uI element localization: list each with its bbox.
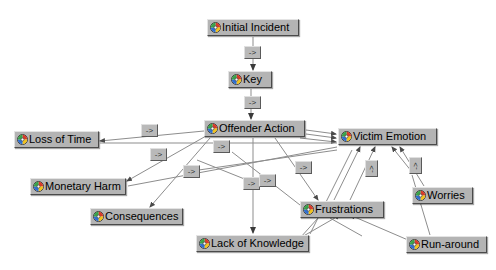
edge-label-text: -> [368, 165, 376, 172]
node-label: Monetary Harm [45, 181, 121, 192]
node-label: Frustrations [315, 204, 373, 215]
node-label: Worries [427, 190, 465, 201]
node-sphere-icon [409, 239, 420, 250]
edge-label-offender-monetary-harm[interactable]: -> [150, 148, 167, 161]
node-label: Run-around [421, 239, 479, 250]
node-sphere-icon [210, 22, 221, 33]
node-label: Lack of Knowledge [211, 238, 304, 249]
edge-label-text: -> [155, 151, 162, 159]
edge-label-offender-victim[interactable]: -> [243, 177, 260, 190]
edge-label-victim-incoming-right[interactable]: -> [409, 157, 422, 174]
node-label: Key [243, 74, 262, 85]
node-consequences[interactable]: Consequences [90, 208, 183, 225]
edge-label-text: -> [264, 177, 271, 185]
node-sphere-icon [207, 123, 218, 134]
node-label: Loss of Time [29, 134, 91, 145]
node-loss-of-time[interactable]: Loss of Time [14, 131, 99, 148]
edge-label-frustrations-victim[interactable]: -> [295, 161, 312, 174]
edge-label-text: -> [249, 49, 256, 57]
edge-label-victim-incoming-left[interactable]: -> [365, 160, 378, 177]
edge-label-text: -> [300, 164, 307, 172]
node-monetary-harm[interactable]: Monetary Harm [30, 178, 126, 195]
node-sphere-icon [303, 204, 314, 215]
node-label: Offender Action [219, 123, 295, 134]
edge-label-text: -> [146, 127, 153, 135]
edge-label-text: -> [188, 168, 195, 176]
node-run-around[interactable]: Run-around [406, 236, 487, 253]
node-label: Initial Incident [222, 22, 289, 33]
diagram-canvas[interactable]: Initial Incident Key O [0, 0, 496, 270]
node-offender-action[interactable]: Offender Action [204, 120, 305, 137]
edge-label-incident-key[interactable]: -> [244, 46, 261, 59]
node-victim-emotion[interactable]: Victim Emotion [338, 128, 437, 145]
edge-label-text: -> [218, 143, 225, 151]
edge-label-offender-lack-of-knowledge[interactable]: -> [259, 174, 276, 187]
node-sphere-icon [17, 134, 28, 145]
edge-label-text: -> [248, 180, 255, 188]
node-sphere-icon [199, 238, 210, 249]
node-initial-incident[interactable]: Initial Incident [207, 19, 299, 36]
node-sphere-icon [33, 181, 44, 192]
node-sphere-icon [341, 131, 352, 142]
edge-label-text: -> [412, 162, 420, 169]
node-sphere-icon [93, 211, 104, 222]
node-label: Victim Emotion [353, 131, 426, 142]
edge-label-offender-consequences[interactable]: -> [183, 165, 200, 178]
node-label: Consequences [105, 211, 178, 222]
node-frustrations[interactable]: Frustrations [300, 201, 384, 218]
node-worries[interactable]: Worries [412, 187, 473, 204]
node-sphere-icon [415, 190, 426, 201]
edge-label-key-offender[interactable]: -> [244, 96, 261, 109]
node-lack-of-knowledge[interactable]: Lack of Knowledge [196, 235, 309, 252]
node-key[interactable]: Key [228, 71, 272, 88]
edge-label-offender-loss-of-time[interactable]: -> [141, 124, 158, 137]
edge-label-offender-down[interactable]: -> [213, 140, 230, 153]
edge-label-text: -> [249, 99, 256, 107]
node-sphere-icon [231, 74, 242, 85]
